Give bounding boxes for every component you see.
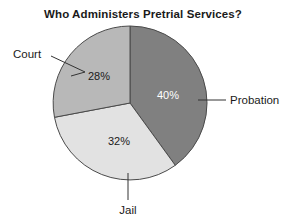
pie-chart-canvas: 40% 32% 28% Court Probation Jail [0, 0, 286, 222]
pie-value-label-jail: 32% [108, 135, 130, 147]
pie-chart-figure: Who Administers Pretrial Services? 40% 3… [0, 0, 286, 222]
pie-category-label-probation: Probation [230, 94, 279, 106]
pie-value-label-court: 28% [88, 70, 110, 82]
pie-category-label-jail: Jail [119, 204, 136, 216]
pie-category-label-court: Court [13, 48, 42, 60]
pie-value-label-probation: 40% [157, 89, 179, 101]
